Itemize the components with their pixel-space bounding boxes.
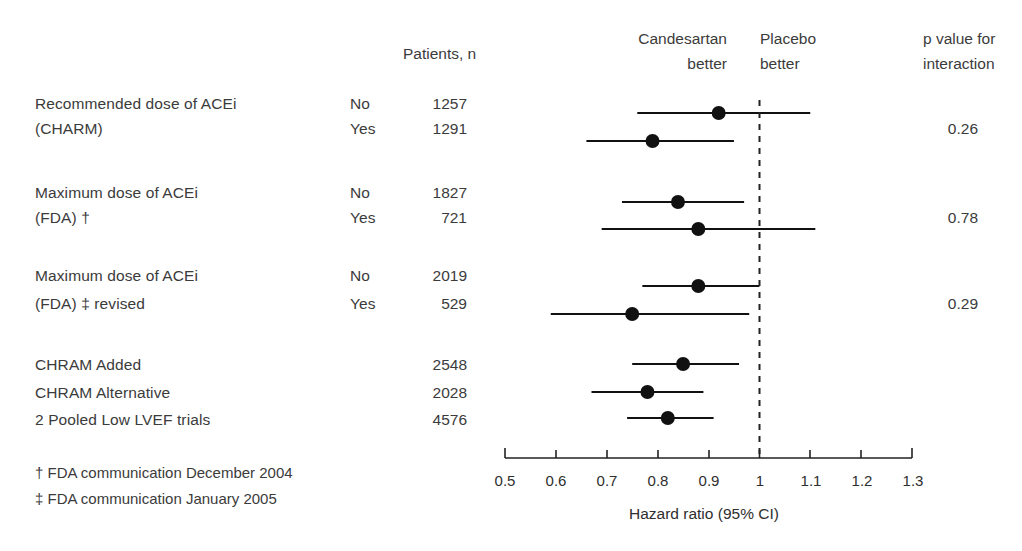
hazard-ratio-marker [661, 411, 675, 425]
hazard-ratio-marker [640, 385, 654, 399]
hazard-ratio-marker [676, 357, 690, 371]
hazard-ratio-marker [712, 106, 726, 120]
hazard-ratio-marker [625, 307, 639, 321]
hazard-ratio-marker [691, 279, 705, 293]
hazard-ratio-marker [646, 134, 660, 148]
x-axis [505, 448, 912, 458]
hazard-ratio-marker [691, 222, 705, 236]
hazard-ratio-marker [671, 195, 685, 209]
forest-plot [0, 0, 1022, 551]
